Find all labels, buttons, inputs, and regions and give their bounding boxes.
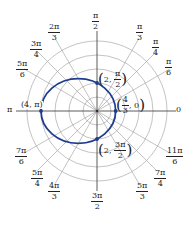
angle-label-5pi-4: 5π4	[31, 169, 43, 188]
angle-label-11pi-6: 11π6	[166, 147, 183, 166]
point-label-2-3pi-2: (2, 3π2 )	[98, 141, 132, 160]
point-label-4-3-0: ( 43, 0 )	[116, 96, 145, 115]
angle-label-3pi-4: 3π4	[30, 40, 42, 59]
angle-label-pi-6: π6	[165, 58, 172, 77]
angle-label-pi-2: π2	[92, 12, 99, 31]
angle-label-2pi-3: 2π3	[48, 23, 60, 42]
angle-label-pi: π	[7, 106, 12, 114]
angle-label-5pi-6: 5π6	[16, 60, 28, 79]
point-label-4-pi: (4, π)	[21, 101, 43, 109]
angle-label-0: 0	[176, 106, 181, 114]
angle-label-7pi-4: 7π4	[154, 169, 166, 188]
angle-label-pi-4: π4	[152, 38, 159, 57]
point-label-2-pi-2: (2, π2 )	[98, 70, 127, 89]
angle-label-7pi-6: 7π6	[15, 147, 27, 166]
point-4-pi	[39, 109, 43, 113]
angle-label-pi-3: π3	[136, 23, 143, 42]
angle-label-4pi-3: 4π3	[48, 182, 60, 201]
angle-label-5pi-3: 5π3	[136, 182, 148, 201]
angle-label-3pi-2: 3π2	[91, 192, 103, 211]
pole	[96, 110, 98, 112]
